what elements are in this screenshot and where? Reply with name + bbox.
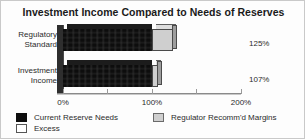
bar-texture	[63, 65, 152, 87]
axis-tick-150	[196, 89, 197, 94]
axis-tick-100	[152, 89, 153, 94]
category-label-regulatory-standard: Regulatory Standard	[1, 30, 57, 49]
legend-swatch-current-reserve-needs	[16, 113, 27, 122]
value-label-investment-income: 107%	[249, 75, 269, 84]
axis-tick-label-200: 200%	[231, 98, 251, 107]
value-axis-line-shadow	[57, 94, 241, 95]
plot-area: 0% 100% 200%	[63, 25, 234, 93]
category-label-line1: Regulatory	[1, 30, 57, 40]
axis-tick-label-0: 0%	[57, 98, 69, 107]
legend-label-regulator-margins: Regulator Recomm'd Margins	[171, 113, 277, 122]
bar-segment-current-reserve-needs	[63, 65, 152, 87]
axis-tick-50	[107, 89, 108, 94]
value-label-regulatory-standard: 125%	[249, 39, 269, 48]
bar-texture	[63, 29, 152, 51]
legend-label-current-reserve-needs: Current Reserve Needs	[34, 113, 118, 122]
category-label-investment-income: Investment Income	[1, 66, 57, 85]
legend-swatch-regulator-margins	[153, 113, 164, 122]
chart-container: Investment Income Compared to Needs of R…	[0, 0, 305, 139]
bar-segment-regulator-margin	[152, 29, 173, 51]
axis-tick-200	[241, 89, 242, 94]
axis-tick-label-100: 100%	[142, 98, 162, 107]
category-label-line2: Standard	[1, 40, 57, 50]
chart-title: Investment Income Compared to Needs of R…	[1, 6, 305, 18]
legend-label-excess: Excess	[34, 124, 60, 133]
chart-legend: Current Reserve Needs Excess Regulator R…	[1, 111, 305, 139]
bar-segment-current-reserve-needs	[63, 29, 152, 51]
category-label-line1: Investment	[1, 66, 57, 76]
axis-tick-0	[63, 89, 64, 94]
category-label-line2: Income	[1, 76, 57, 86]
bar-segment-regulator-margin	[152, 65, 158, 87]
legend-swatch-excess	[16, 124, 27, 133]
